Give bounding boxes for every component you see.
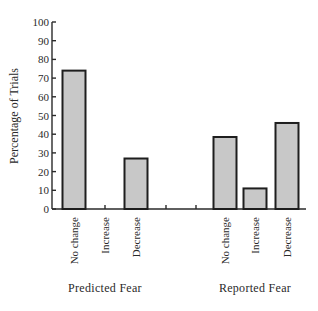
group-label: Reported Fear	[219, 281, 291, 295]
y-tick-label: 30	[38, 147, 50, 159]
y-tick-label: 50	[38, 110, 50, 122]
group-label: Predicted Fear	[68, 281, 142, 295]
category-label: Decrease	[281, 217, 293, 257]
y-tick-label: 20	[38, 166, 50, 178]
bar-predicted-fear-decrease	[125, 159, 148, 209]
y-axis: 0102030405060708090100	[33, 16, 57, 215]
category-label: Decrease	[130, 217, 142, 257]
y-tick-label: 90	[38, 35, 50, 47]
category-label: Increase	[249, 217, 261, 254]
y-tick-label: 60	[38, 91, 50, 103]
bar-reported-fear-decrease	[276, 123, 299, 209]
y-tick-label: 80	[38, 53, 50, 65]
y-tick-label: 100	[33, 16, 50, 28]
bar-reported-fear-no-change	[214, 137, 237, 209]
y-tick-label: 10	[38, 184, 50, 196]
bar-predicted-fear-no-change	[63, 71, 86, 209]
bar-chart: 0102030405060708090100 No changeIncrease…	[0, 0, 318, 311]
category-labels: No changeIncreaseDecreasePredicted FearN…	[68, 217, 293, 295]
x-axis	[52, 205, 306, 209]
bar-reported-fear-increase	[244, 188, 267, 209]
y-axis-title: Percentage of Trials	[7, 68, 21, 164]
category-label: No change	[68, 217, 80, 264]
y-tick-label: 70	[38, 72, 50, 84]
bars	[63, 71, 299, 209]
y-tick-label: 0	[44, 203, 50, 215]
category-label: No change	[219, 217, 231, 264]
category-label: Increase	[99, 217, 111, 254]
y-tick-label: 40	[38, 128, 50, 140]
